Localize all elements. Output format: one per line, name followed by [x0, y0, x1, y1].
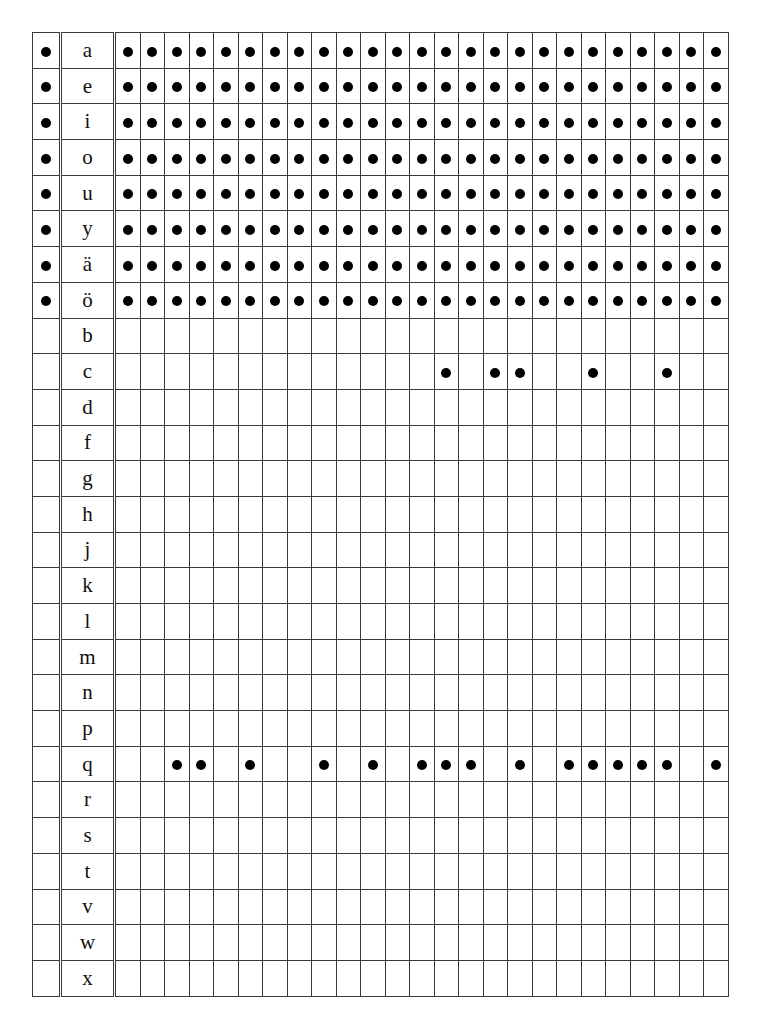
- dot-icon: [686, 47, 696, 57]
- dot-icon: [319, 47, 329, 57]
- dot-icon: [686, 225, 696, 235]
- grid-cell: [189, 889, 214, 925]
- dot-icon: [368, 47, 378, 57]
- grid-cell: [410, 318, 435, 354]
- grid-cell: [385, 711, 410, 747]
- grid-cell: [336, 140, 361, 176]
- grid-cell: [630, 140, 655, 176]
- row-marker-cell: [33, 389, 61, 425]
- grid-cell: [312, 639, 337, 675]
- table-row: h: [33, 496, 729, 532]
- grid-cell: [532, 818, 557, 854]
- dot-icon: [588, 225, 598, 235]
- grid-cell: [581, 461, 606, 497]
- grid-cell: [361, 711, 386, 747]
- dot-icon: [539, 225, 549, 235]
- grid-cell: [679, 461, 704, 497]
- grid-cell: [532, 782, 557, 818]
- grid-cell: [508, 389, 533, 425]
- dot-icon: [588, 47, 598, 57]
- grid-cell: [606, 104, 631, 140]
- grid-cell: [361, 247, 386, 283]
- grid-cell: [606, 568, 631, 604]
- grid-cell: [115, 354, 141, 390]
- grid-cell: [434, 282, 459, 318]
- dot-icon: [637, 225, 647, 235]
- dot-icon: [662, 225, 672, 235]
- grid-cell: [361, 853, 386, 889]
- row-marker-cell: [33, 568, 61, 604]
- dot-icon: [588, 760, 598, 770]
- grid-cell: [410, 889, 435, 925]
- grid-cell: [165, 532, 190, 568]
- grid-cell: [434, 604, 459, 640]
- grid-cell: [238, 104, 263, 140]
- grid-cell: [557, 389, 582, 425]
- grid-cell: [263, 68, 288, 104]
- dot-icon: [147, 154, 157, 164]
- grid-cell: [508, 354, 533, 390]
- grid-cell: [532, 568, 557, 604]
- grid-cell: [483, 568, 508, 604]
- grid-cell: [459, 496, 484, 532]
- dot-icon: [221, 225, 231, 235]
- grid-cell: [287, 211, 312, 247]
- table-row: c: [33, 354, 729, 390]
- dot-icon: [662, 296, 672, 306]
- grid-cell: [165, 782, 190, 818]
- grid-cell: [679, 282, 704, 318]
- dot-icon: [41, 118, 51, 128]
- dot-icon: [441, 118, 451, 128]
- grid-cell: [508, 318, 533, 354]
- grid-cell: [140, 68, 165, 104]
- grid-cell: [532, 389, 557, 425]
- grid-cell: [655, 247, 680, 283]
- grid-cell: [263, 675, 288, 711]
- grid-cell: [704, 104, 729, 140]
- grid-cell: [165, 33, 190, 69]
- grid-cell: [336, 461, 361, 497]
- grid-cell: [679, 925, 704, 961]
- grid-cell: [704, 711, 729, 747]
- dot-icon: [417, 296, 427, 306]
- dot-icon: [172, 225, 182, 235]
- grid-cell: [140, 711, 165, 747]
- grid-cell: [287, 711, 312, 747]
- grid-cell: [606, 889, 631, 925]
- row-letter-label: f: [61, 425, 115, 461]
- grid-cell: [704, 425, 729, 461]
- grid-cell: [581, 818, 606, 854]
- grid-cell: [581, 675, 606, 711]
- grid-cell: [238, 782, 263, 818]
- grid-cell: [336, 853, 361, 889]
- dot-icon: [245, 118, 255, 128]
- grid-cell: [581, 496, 606, 532]
- grid-cell: [655, 461, 680, 497]
- row-letter-label: o: [61, 140, 115, 176]
- grid-cell: [287, 960, 312, 996]
- grid-cell: [483, 889, 508, 925]
- grid-cell: [140, 140, 165, 176]
- grid-cell: [532, 711, 557, 747]
- grid-cell: [557, 675, 582, 711]
- grid-cell: [704, 461, 729, 497]
- dot-icon: [245, 760, 255, 770]
- grid-cell: [655, 818, 680, 854]
- dot-icon: [564, 82, 574, 92]
- grid-cell: [385, 782, 410, 818]
- dot-icon: [564, 760, 574, 770]
- grid-cell: [189, 175, 214, 211]
- dot-icon: [490, 47, 500, 57]
- dot-icon: [221, 154, 231, 164]
- dot-icon: [490, 82, 500, 92]
- grid-cell: [385, 104, 410, 140]
- grid-cell: [557, 853, 582, 889]
- dot-icon: [662, 82, 672, 92]
- grid-cell: [459, 568, 484, 604]
- grid-cell: [704, 532, 729, 568]
- grid-cell: [532, 853, 557, 889]
- dot-icon: [123, 261, 133, 271]
- dot-icon: [466, 82, 476, 92]
- grid-cell: [557, 639, 582, 675]
- grid-cell: [312, 853, 337, 889]
